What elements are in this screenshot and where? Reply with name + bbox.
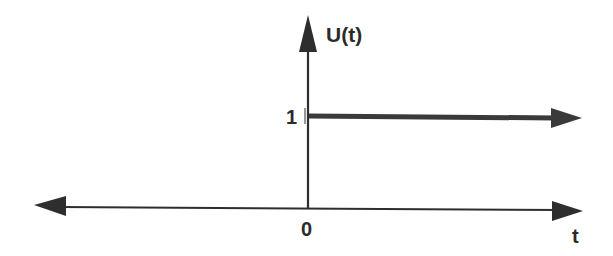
step-line-arrowhead-icon	[551, 108, 582, 128]
x-axis-left-arrowhead-icon	[34, 196, 66, 216]
x-axis-line	[60, 207, 560, 210]
y-axis-label: U(t)	[326, 23, 362, 46]
x-axis-right-arrowhead-icon	[552, 201, 583, 221]
y-axis-up-arrowhead-icon	[299, 15, 317, 52]
step-level-label: 1	[286, 106, 297, 128]
x-axis-label: t	[572, 225, 579, 247]
origin-label: 0	[301, 218, 312, 240]
unit-step-diagram: U(t) 1 0 t	[0, 0, 613, 256]
step-line	[309, 116, 555, 118]
